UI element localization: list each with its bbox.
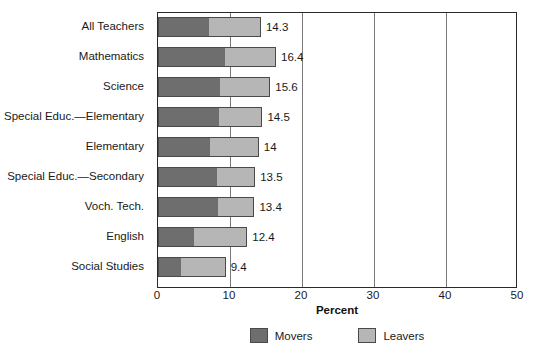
bar-segment-movers [158,197,218,217]
bar-segment-movers [158,17,209,37]
category-label: Elementary [0,136,150,156]
category-label: Voch. Tech. [0,196,150,216]
bar-row [158,77,270,97]
category-label: Special Educ.—Secondary [0,166,150,186]
bar-row [158,257,226,277]
bar-value-label: 9.4 [231,257,247,277]
category-label: Social Studies [0,256,150,276]
bar-value-label: 16.4 [281,47,303,67]
bar-segment-movers [158,47,225,67]
category-label: Science [0,76,150,96]
bar-segment-movers [158,227,194,247]
bar-row [158,107,262,127]
bar-segment-movers [158,137,210,157]
category-label: Mathematics [0,46,150,66]
bar-value-label: 15.6 [275,77,297,97]
bar-value-label: 13.5 [260,167,282,187]
bar-segment-leavers [194,227,247,247]
bar-row [158,227,247,247]
x-axis-tick-labels: 01020304050 [157,289,517,305]
legend-swatch [250,328,268,343]
x-tick-label: 10 [223,289,236,301]
bar-segment-leavers [219,107,262,127]
legend-label: Leavers [383,330,424,342]
x-axis-title: Percent [157,304,517,316]
legend-item: Leavers [358,328,424,343]
bar-value-label: 14.5 [267,107,289,127]
bar-row [158,167,255,187]
legend-swatch [358,328,376,343]
x-tick-label: 30 [367,289,380,301]
category-label: Special Educ.—Elementary [0,106,150,126]
x-tick-label: 40 [439,289,452,301]
legend-item: Movers [250,328,313,343]
bar-row [158,17,261,37]
bar-row [158,197,254,217]
bar-row [158,47,276,67]
bar-segment-leavers [217,167,255,187]
bar-segment-leavers [218,197,254,217]
bar-value-label: 14 [264,137,277,157]
bar-segment-movers [158,257,181,277]
bar-segment-leavers [220,77,270,97]
bar-chart: All TeachersMathematicsScienceSpecial Ed… [0,0,534,357]
bars-layer: 14.316.415.614.51413.513.412.49.4 [158,13,516,287]
bar-segment-movers [158,77,220,97]
bar-segment-movers [158,107,219,127]
bar-segment-leavers [209,17,261,37]
bar-segment-leavers [225,47,276,67]
bar-value-label: 12.4 [252,227,274,247]
plot-area: 14.316.415.614.51413.513.412.49.4 [157,12,517,288]
bar-segment-movers [158,167,217,187]
category-axis-labels: All TeachersMathematicsScienceSpecial Ed… [0,16,150,286]
x-tick-label: 20 [295,289,308,301]
x-tick-label: 50 [511,289,524,301]
x-tick-label: 0 [154,289,160,301]
category-label: All Teachers [0,16,150,36]
category-label: English [0,226,150,246]
legend-label: Movers [275,330,313,342]
bar-value-label: 13.4 [259,197,281,217]
bar-value-label: 14.3 [266,17,288,37]
bar-segment-leavers [210,137,259,157]
bar-segment-leavers [181,257,226,277]
bar-row [158,137,259,157]
legend: MoversLeavers [157,328,517,343]
